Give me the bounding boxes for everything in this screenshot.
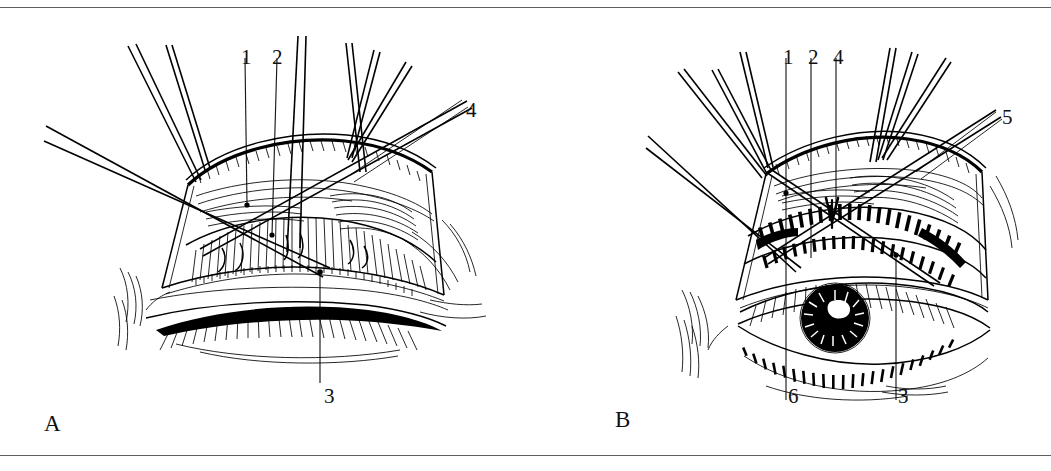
open-eye-b — [738, 283, 990, 400]
panel-b-label-1: 1 — [783, 47, 794, 68]
panel-a-label-3: 3 — [324, 386, 335, 407]
panel-a-letter: A — [44, 412, 61, 435]
leader-4-a — [350, 100, 468, 182]
panel-b-label-2: 2 — [808, 47, 819, 68]
leader-5-b — [916, 112, 1002, 179]
panel-a-label-4: 4 — [466, 100, 477, 121]
tarsus-b — [744, 204, 986, 287]
panel-a-label-2: 2 — [272, 47, 283, 68]
panel-b-label-4: 4 — [833, 47, 844, 68]
panel-a-label-1: 1 — [241, 47, 252, 68]
panel-b-letter: B — [615, 408, 630, 431]
closed-eye-a — [146, 287, 448, 363]
panel-b-label-6: 6 — [788, 386, 799, 407]
figure-root: A 1 2 4 3 — [0, 0, 1051, 471]
meibomian-row-lower — [762, 236, 955, 287]
panel-b-label-5: 5 — [1002, 107, 1013, 128]
panel-a: A 1 2 4 3 — [0, 0, 530, 471]
panel-a-artwork — [0, 0, 530, 471]
panel-b: B 1 2 4 5 6 3 — [530, 0, 1051, 471]
panel-b-label-3: 3 — [898, 386, 909, 407]
